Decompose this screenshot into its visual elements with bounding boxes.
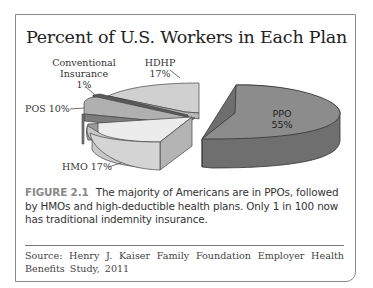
divider	[25, 245, 344, 246]
label-hdhp-name: HDHP	[140, 57, 180, 68]
label-conventional: Conventional Insurance 1%	[44, 57, 124, 90]
label-hdhp: HDHP 17%	[140, 57, 180, 79]
source-note: Source: Henry J. Kaiser Family Foundatio…	[25, 249, 344, 275]
label-ppo: PPO 55%	[262, 108, 302, 130]
label-pos: POS 10%	[25, 103, 75, 114]
label-hdhp-pct: 17%	[140, 68, 180, 79]
figure-caption: FIGURE 2.1 The majority of Americans are…	[25, 186, 347, 227]
label-conventional-pct: 1%	[44, 79, 124, 90]
label-hmo: HMO 17%	[62, 161, 112, 172]
label-ppo-pct: 55%	[262, 119, 302, 130]
label-ppo-name: PPO	[262, 108, 302, 119]
figure-label: FIGURE 2.1	[25, 186, 89, 198]
label-conventional-line2: Insurance	[44, 68, 124, 79]
label-conventional-line1: Conventional	[44, 57, 124, 68]
